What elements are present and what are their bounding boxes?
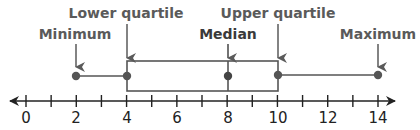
- annotations: Minimum Lower quartile Median Upper quar…: [39, 5, 417, 67]
- tick-label-8: 8: [223, 109, 233, 127]
- tick-label-6: 6: [172, 109, 182, 127]
- label-median: Median: [199, 26, 257, 42]
- upper-quartile-point: [274, 71, 282, 79]
- tick-label-12: 12: [318, 109, 337, 127]
- maximum-point: [374, 71, 382, 79]
- tick-label-2: 2: [71, 109, 81, 127]
- label-maximum: Maximum: [340, 26, 416, 42]
- tick-label-0: 0: [21, 109, 31, 127]
- label-minimum: Minimum: [39, 26, 112, 42]
- interquartile-box: [127, 61, 278, 91]
- minimum-point: [72, 72, 80, 80]
- box-plot-diagram: 0 2 4 6 8 10 12 14 Minimum Lower quartil…: [0, 0, 420, 130]
- label-upper-quartile: Upper quartile: [221, 5, 336, 21]
- box-plot: [72, 61, 382, 91]
- lower-quartile-point: [123, 72, 131, 80]
- axis-tick-labels: 0 2 4 6 8 10 12 14: [21, 109, 387, 127]
- number-line: 0 2 4 6 8 10 12 14: [10, 95, 395, 127]
- tick-label-10: 10: [268, 109, 287, 127]
- median-point: [224, 72, 232, 80]
- tick-label-14: 14: [368, 109, 387, 127]
- tick-label-4: 4: [122, 109, 132, 127]
- label-lower-quartile: Lower quartile: [69, 5, 184, 21]
